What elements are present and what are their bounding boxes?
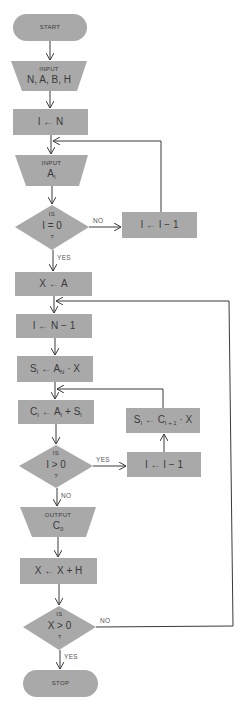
edge-label-x-positive-yes: YES (64, 653, 78, 660)
compute-s-loop-box (126, 408, 200, 433)
output-c-shape (20, 507, 96, 537)
edge-label-x-positive-no: NO (100, 617, 110, 624)
set-x-box (15, 272, 92, 296)
edge-label-i-zero-yes: YES (57, 254, 71, 261)
decrement-i-box-1 (122, 212, 197, 238)
stop-terminal (23, 670, 98, 697)
increment-x-box (20, 558, 97, 584)
flowchart-canvas (0, 0, 243, 707)
decision-i-positive-diamond (19, 445, 93, 488)
init-i-box (13, 109, 88, 135)
decision-x-positive-diamond (23, 606, 96, 650)
edge-label-i-positive-no: NO (61, 492, 71, 499)
edge-label-i-positive-yes: YES (96, 456, 110, 463)
edge-label-i-zero-no: NO (93, 217, 103, 224)
compute-c-box (18, 400, 94, 424)
compute-s-initial-box (17, 356, 93, 382)
input-a-shape (15, 155, 88, 186)
start-terminal (13, 14, 87, 41)
decrement-i-box-2 (127, 452, 201, 477)
set-i-n-minus-1-box (16, 314, 92, 338)
decision-i-zero-diamond (15, 205, 89, 250)
input-params-shape (11, 61, 87, 91)
